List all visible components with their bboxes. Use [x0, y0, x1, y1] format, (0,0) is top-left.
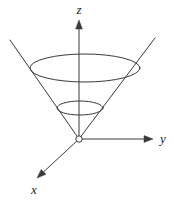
figure-canvas: z y x [0, 0, 174, 204]
cone-diagram-figure: z y x [0, 0, 174, 204]
axis-line-x [44, 139, 79, 172]
cone-upper-ellipse [30, 54, 140, 82]
origin-marker [76, 136, 82, 142]
cone-lower-ellipse [57, 101, 103, 115]
axis-arrowhead-y [144, 136, 153, 143]
cone-shape [10, 38, 155, 139]
axis-label-y: y [158, 131, 166, 146]
coordinate-axes [37, 20, 153, 178]
cone-slant-right [79, 38, 155, 139]
axis-label-x: x [30, 182, 37, 197]
axis-arrowhead-z [76, 20, 83, 29]
axis-label-z: z [75, 2, 81, 17]
